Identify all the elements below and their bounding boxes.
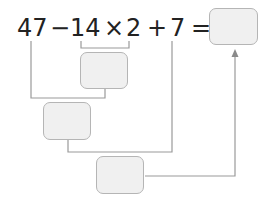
step2-answer-box[interactable]	[43, 102, 91, 140]
step3-answer-box[interactable]	[96, 156, 144, 194]
order-of-operations-diagram: 47 − 14 × 2 + 7 =	[0, 0, 267, 202]
bracket-14x2	[81, 41, 129, 48]
final-answer-box[interactable]	[209, 8, 258, 45]
arrow-up-icon	[232, 49, 239, 57]
connector-step3-to-final	[145, 56, 235, 176]
step1-answer-box[interactable]	[80, 52, 128, 89]
